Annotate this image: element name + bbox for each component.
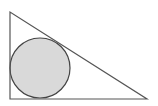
inscribed-circle <box>10 38 70 98</box>
incircle-diagram <box>0 0 158 106</box>
